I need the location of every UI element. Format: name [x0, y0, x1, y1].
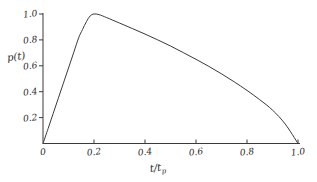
- x-axis-title-subscript: p: [161, 167, 166, 175]
- y-tick-label: 0.2: [22, 113, 37, 124]
- y-tick-label: 0.4: [22, 87, 37, 98]
- y-axis-ticks: [39, 14, 43, 118]
- figure-container: 1.0 0.8 0.6 0.4 0.2 0 0.2 0.4 0.6 0.8 1.…: [0, 0, 317, 182]
- x-axis-title: t/tp: [149, 162, 166, 177]
- y-tick-label: 0.6: [22, 61, 37, 72]
- x-axis-ticks: [94, 140, 298, 144]
- y-tick-label: 0.8: [22, 35, 37, 46]
- y-tick-label: 1.0: [22, 9, 37, 20]
- data-series-curve: [43, 14, 298, 144]
